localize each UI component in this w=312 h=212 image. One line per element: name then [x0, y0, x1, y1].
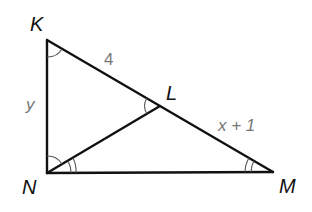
angle-mark-m-double-inner [251, 161, 254, 172]
angle-mark-n-single [47, 156, 62, 164]
vertex-label-m: M [279, 175, 296, 197]
measure-kl: 4 [104, 50, 113, 69]
segment-nm [47, 172, 273, 173]
vertex-label-l: L [166, 82, 177, 104]
geometry-figure: K L M N 4 x + 1 y [0, 0, 312, 212]
angle-mark-l [145, 98, 147, 114]
angle-mark-n-double-outer [73, 158, 76, 173]
vertex-label-k: K [30, 13, 45, 35]
measure-lm: x + 1 [217, 116, 255, 135]
vertex-label-n: N [22, 176, 37, 198]
angle-mark-k [47, 49, 62, 57]
angle-mark-m-double-outer [245, 158, 249, 172]
angle-mark-n-double-inner [68, 161, 71, 173]
measure-kn: y [25, 95, 36, 114]
segment-nl [47, 106, 160, 173]
